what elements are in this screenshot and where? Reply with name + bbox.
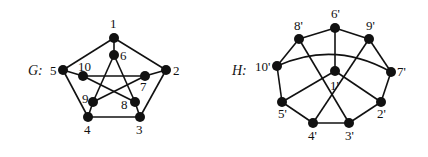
vertex-label: 4' bbox=[308, 128, 317, 143]
vertex bbox=[58, 65, 68, 75]
vertex-label: 5 bbox=[50, 63, 57, 78]
edge bbox=[335, 71, 381, 102]
vertex bbox=[344, 118, 354, 128]
graph-name-label: H: bbox=[231, 63, 247, 78]
vertex-label: 3' bbox=[345, 128, 354, 143]
vertex bbox=[109, 50, 119, 60]
vertex-label: 1 bbox=[110, 16, 117, 31]
vertex-label: 6' bbox=[331, 6, 340, 21]
vertex-label: 4 bbox=[84, 122, 91, 137]
vertex-label: 3 bbox=[136, 122, 143, 137]
edge bbox=[335, 28, 369, 39]
graph-h: H:1'2'3'4'5'6'7'8'9'10' bbox=[231, 6, 406, 143]
vertex bbox=[308, 118, 318, 128]
vertex-label: 7' bbox=[397, 64, 406, 79]
vertex bbox=[364, 34, 374, 44]
vertex bbox=[330, 23, 340, 33]
vertex bbox=[130, 97, 140, 107]
vertex-label: 7 bbox=[140, 79, 147, 94]
vertex bbox=[161, 65, 171, 75]
vertex bbox=[83, 112, 93, 122]
vertex-label: 1' bbox=[330, 78, 339, 93]
edge bbox=[93, 55, 114, 102]
vertex bbox=[386, 67, 396, 77]
vertex-label: 10 bbox=[78, 59, 91, 74]
vertex bbox=[272, 61, 282, 71]
vertex-label: 8' bbox=[294, 18, 303, 33]
vertex-label: 8 bbox=[121, 97, 128, 112]
vertex-label: 9 bbox=[82, 91, 89, 106]
vertex bbox=[135, 112, 145, 122]
graph-g: G:12345678910 bbox=[28, 16, 180, 137]
vertex bbox=[330, 66, 340, 76]
vertex-label: 9' bbox=[366, 18, 375, 33]
vertex bbox=[88, 97, 98, 107]
vertex-label: 2 bbox=[173, 63, 180, 78]
edge bbox=[277, 66, 282, 102]
vertex bbox=[109, 33, 119, 43]
vertex-label: 6 bbox=[120, 48, 127, 63]
vertex-label: 2' bbox=[377, 106, 386, 121]
vertex-label: 5' bbox=[278, 106, 287, 121]
graph-name-label: G: bbox=[28, 63, 43, 78]
graph-diagram: G:12345678910 H:1'2'3'4'5'6'7'8'9'10' bbox=[0, 0, 428, 157]
vertex-label: 10' bbox=[255, 59, 270, 74]
edge bbox=[299, 28, 335, 39]
vertex bbox=[294, 34, 304, 44]
